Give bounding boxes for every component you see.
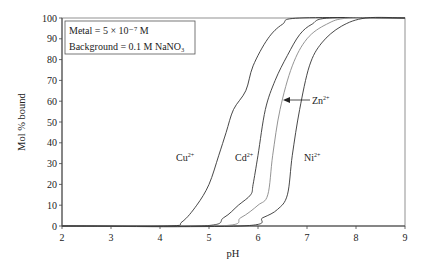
y-tick-label: 100 <box>42 13 57 24</box>
legend-line-metal: Metal = 5 × 10⁻⁷ M <box>69 25 149 36</box>
y-tick-label: 40 <box>47 137 57 148</box>
curve-label-cu: Cu2+ <box>176 152 195 163</box>
x-tick-label: 3 <box>109 232 114 243</box>
x-axis-label: pH <box>227 248 240 259</box>
y-tick-label: 90 <box>47 33 57 44</box>
legend-line-background: Background = 0.1 M NaNO₃ <box>69 41 185 52</box>
y-tick-label: 30 <box>47 158 57 169</box>
y-tick-label: 50 <box>47 117 57 128</box>
y-axis: 0102030405060708090100 <box>42 13 62 232</box>
annotation-layer: Cu2+Cd2+Zn2+Ni2+ <box>176 95 330 163</box>
x-tick-label: 9 <box>403 232 408 243</box>
y-tick-label: 60 <box>47 96 57 107</box>
x-tick-label: 4 <box>158 232 163 243</box>
y-tick-label: 10 <box>47 200 57 211</box>
y-axis-label: Mol % bound <box>16 92 27 151</box>
chart: 0102030405060708090100 23456789 Cu2+Cd2+… <box>0 0 426 270</box>
y-tick-label: 20 <box>47 179 57 190</box>
x-tick-label: 6 <box>256 232 261 243</box>
x-tick-label: 2 <box>60 232 65 243</box>
legend-box: Metal = 5 × 10⁻⁷ M Background = 0.1 M Na… <box>65 21 195 54</box>
curve-label-cd: Cd2+ <box>235 152 254 163</box>
x-axis: 23456789 <box>60 226 408 243</box>
curve-label-ni: Ni2+ <box>304 152 321 163</box>
y-tick-label: 0 <box>52 221 57 232</box>
arrow-head-icon <box>283 97 290 103</box>
x-tick-label: 8 <box>354 232 359 243</box>
x-tick-label: 7 <box>305 232 310 243</box>
x-tick-label: 5 <box>207 232 212 243</box>
y-tick-label: 80 <box>47 54 57 65</box>
curve-label-zn: Zn2+ <box>312 95 330 106</box>
y-tick-label: 70 <box>47 75 57 86</box>
